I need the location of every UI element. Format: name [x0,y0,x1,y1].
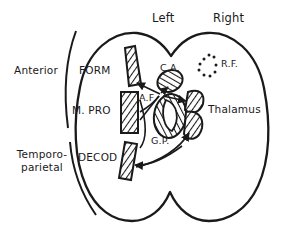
label-left-hemisphere: Left [152,12,174,25]
structure-r-f-dotted-ring [198,54,218,78]
label-temporo-parietal-region-line2: parietal [10,161,74,173]
label-structure-c-a: C.A. [160,63,180,74]
label-structure-g-p: G.P. [151,136,169,147]
label-stage-form: FORM [79,64,110,76]
hatched-strip-decod [119,142,137,180]
structure-thalamus [184,91,203,139]
label-structure-a-f: A.F. [139,93,156,104]
label-right-hemisphere: Right [213,12,244,25]
label-anterior-region: Anterior [14,64,58,76]
label-stage-m-pro: M. PRO [72,104,111,116]
hatched-strip-form [125,46,141,86]
hatched-strip-m-pro [121,92,138,133]
label-structure-r-f: R.F. [221,59,238,70]
label-structure-thalamus: Thalamus [208,103,261,115]
label-stage-decod: DECOD [78,151,117,163]
label-temporo-parietal-region-line1: Temporo- [10,148,74,160]
brain-pathway-diagram: Left Right Anterior Temporo- parietal FO… [0,0,288,229]
